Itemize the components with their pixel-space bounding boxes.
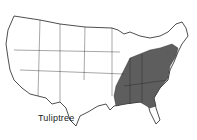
us-range-map bbox=[0, 0, 197, 140]
map-title: Tuliptree bbox=[38, 113, 74, 123]
